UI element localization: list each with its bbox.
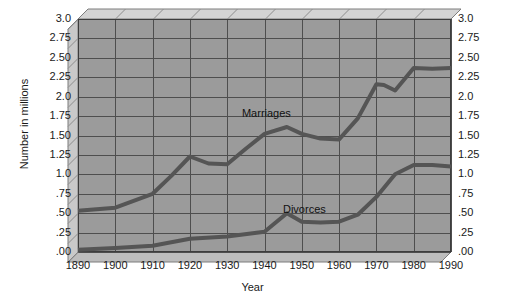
y-tick-label-right: 2.0 xyxy=(458,91,473,102)
y-tick-label-left: 3.0 xyxy=(56,13,71,24)
y-tick-label-right: 1.50 xyxy=(458,130,479,141)
y-tick-label-left: 1.50 xyxy=(50,130,71,141)
x-tick-label: 1930 xyxy=(207,260,247,271)
y-tick-label-right: 2.75 xyxy=(458,32,479,43)
y-tick-label-left: .75 xyxy=(56,188,71,199)
x-tick-label: 1950 xyxy=(282,260,322,271)
x-tick-label: 1960 xyxy=(319,260,359,271)
y-tick-label-left: .00 xyxy=(56,246,71,257)
x-tick-label: 1940 xyxy=(245,260,285,271)
series-label-marriages: Marriages xyxy=(242,107,291,119)
x-tick-label: 1920 xyxy=(170,260,210,271)
y-tick-label-left: 1.0 xyxy=(56,168,71,179)
y-tick-label-right: .25 xyxy=(458,227,473,238)
y-tick-label-right: 1.0 xyxy=(458,168,473,179)
x-tick-label: 1980 xyxy=(394,260,434,271)
x-tick-label: 1890 xyxy=(58,260,98,271)
x-tick-label: 1990 xyxy=(431,260,471,271)
x-tick-label: 1900 xyxy=(95,260,135,271)
y-tick-label-right: .75 xyxy=(458,188,473,199)
plot-top-bevel xyxy=(78,9,461,19)
y-tick-label-left: 2.25 xyxy=(50,71,71,82)
y-tick-label-left: 1.75 xyxy=(50,110,71,121)
y-tick-label-right: 1.75 xyxy=(458,110,479,121)
y-tick-label-left: 1.25 xyxy=(50,149,71,160)
y-tick-label-right: 3.0 xyxy=(458,13,473,24)
x-tick-label: 1970 xyxy=(356,260,396,271)
y-tick-label-right: 2.50 xyxy=(458,52,479,63)
y-tick-label-right: 1.25 xyxy=(458,149,479,160)
y-tick-label-left: 2.75 xyxy=(50,32,71,43)
y-tick-label-left: 2.0 xyxy=(56,91,71,102)
y-tick-label-right: .00 xyxy=(458,246,473,257)
y-tick-label-left: .25 xyxy=(56,227,71,238)
chart-container: Number in millions Year 3.02.752.502.252… xyxy=(0,0,505,304)
series-label-divorces: Divorces xyxy=(283,203,326,215)
y-tick-label-right: 2.25 xyxy=(458,71,479,82)
x-tick-label: 1910 xyxy=(133,260,173,271)
y-tick-label-left: .50 xyxy=(56,207,71,218)
y-tick-label-right: .50 xyxy=(458,207,473,218)
y-tick-label-left: 2.50 xyxy=(50,52,71,63)
